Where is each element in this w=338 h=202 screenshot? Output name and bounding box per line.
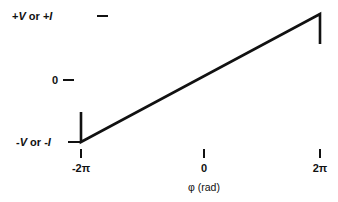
x-axis-title: φ (rad) xyxy=(188,181,220,193)
x-label-left: -2π xyxy=(72,162,91,174)
sawtooth-line xyxy=(81,14,320,142)
x-label-right: 2π xyxy=(313,162,328,174)
y-label-bottom: -V or -I xyxy=(16,136,52,148)
x-label-zero: 0 xyxy=(201,162,207,174)
y-label-zero: 0 xyxy=(52,74,58,86)
sawtooth-chart: +V or +I 0 -V or -I -2π 0 2π φ (rad) xyxy=(0,0,338,202)
y-label-top: +V or +I xyxy=(12,10,53,22)
